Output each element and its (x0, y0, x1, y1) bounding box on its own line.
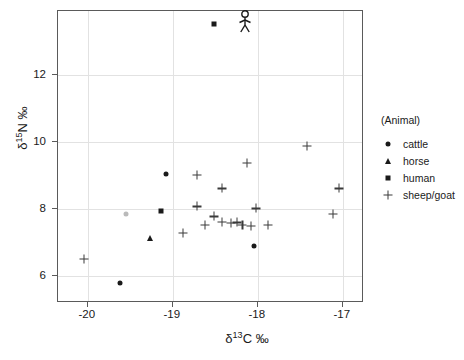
y-axis-label: δ15N ‰ (14, 28, 30, 228)
x-tick (342, 302, 343, 307)
data-point-sheep-goat (334, 184, 343, 193)
x-tick (87, 302, 88, 307)
legend-label: horse (403, 155, 429, 167)
y-axis-label-delta: δ (15, 143, 30, 150)
legend-item-human[interactable]: human (381, 169, 463, 186)
x-tick-label: -19 (163, 308, 180, 320)
legend-marker-plus-icon (381, 188, 395, 202)
data-point-sheep-goat (178, 229, 187, 238)
figure-container: δ13C ‰ δ15N ‰ (Animal) cattlehorsehumans… (0, 0, 464, 360)
data-point-cattle (163, 171, 168, 176)
data-point-circle (386, 141, 391, 146)
x-axis-label-superscript: 13 (233, 330, 243, 340)
x-tick (172, 302, 173, 307)
data-point-sheep-goat (192, 170, 201, 179)
x-tick-label: -20 (78, 308, 95, 320)
x-tick-label: -18 (248, 308, 265, 320)
legend: (Animal) cattlehorsehumansheep/goat (381, 114, 463, 203)
data-point-plus (384, 190, 393, 199)
data-point-sheep-goat (252, 204, 261, 213)
legend-marker-triangle-icon (381, 154, 395, 168)
y-tick-label: 12 (33, 68, 46, 80)
legend-label: sheep/goat (403, 189, 455, 201)
y-tick-label: 6 (40, 269, 46, 281)
data-point-human (211, 22, 216, 27)
y-tick (52, 208, 57, 209)
legend-marker-circle-icon (381, 137, 395, 151)
data-point-sheep-goat (218, 184, 227, 193)
legend-item-cattle[interactable]: cattle (381, 135, 463, 152)
x-axis-label: δ13C ‰ (0, 330, 464, 346)
data-point-sheep-goat (79, 254, 88, 263)
gridline-horizontal (58, 209, 362, 210)
gridline-horizontal (58, 142, 362, 143)
gridline-vertical (258, 11, 259, 301)
data-point-square (386, 175, 391, 180)
data-point-cattle (251, 243, 256, 248)
x-axis-label-delta: δ (225, 331, 232, 346)
data-point-sheep-goat (328, 210, 337, 219)
gridline-horizontal (58, 75, 362, 76)
gridline-vertical (343, 11, 344, 301)
data-point-sheep-goat (192, 202, 201, 211)
data-point-horse (147, 235, 153, 241)
y-tick-label: 8 (40, 202, 46, 214)
y-tick (52, 74, 57, 75)
x-axis-label-unit: C ‰ (243, 331, 269, 346)
legend-marker-square-icon (381, 171, 395, 185)
data-point-human (158, 208, 163, 213)
y-tick-label: 10 (33, 135, 46, 147)
legend-label: cattle (403, 138, 428, 150)
data-point-cattle (118, 280, 123, 285)
human-figure-icon (237, 10, 253, 38)
data-point-sheep-goat (246, 221, 255, 230)
y-tick (52, 141, 57, 142)
data-point-triangle (385, 158, 391, 164)
data-point-sheep-goat (242, 158, 251, 167)
x-tick (257, 302, 258, 307)
data-point-sheep-goat (263, 221, 272, 230)
plot-area (57, 10, 363, 302)
legend-items: cattlehorsehumansheep/goat (381, 135, 463, 203)
data-point-sheep-goat (303, 141, 312, 150)
x-tick-label: -17 (333, 308, 350, 320)
legend-item-sheep-goat[interactable]: sheep/goat (381, 186, 463, 203)
legend-title: (Animal) (381, 114, 463, 126)
legend-item-horse[interactable]: horse (381, 152, 463, 169)
y-tick (52, 275, 57, 276)
y-axis-label-superscript: 15 (14, 133, 24, 143)
gridline-vertical (173, 11, 174, 301)
y-axis-label-unit: N ‰ (15, 107, 30, 133)
data-point-cattle (124, 212, 129, 217)
gridline-horizontal (58, 276, 362, 277)
data-point-sheep-goat (201, 221, 210, 230)
legend-label: human (403, 172, 435, 184)
